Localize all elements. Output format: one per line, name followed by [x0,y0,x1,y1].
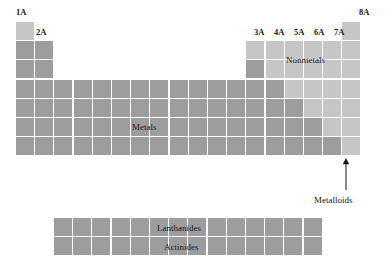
element-cell-metal [189,137,207,155]
element-cell-nonmetal [266,60,284,78]
element-cell-metalloid [266,80,284,98]
element-cell-metal [54,118,72,136]
element-cell-nonmetal [342,22,360,40]
fblock-cell-actinides [92,237,110,255]
fblock-cell-actinides [73,237,91,255]
element-cell-metal [227,137,245,155]
element-cell-metal [54,99,72,117]
group-label-4a: 4A [274,28,284,37]
fblock-cell-lanthanides [112,218,130,236]
element-cell-metal [35,118,53,136]
element-cell-metal [74,118,92,136]
element-cell-metal [246,99,264,117]
element-cell-metal [93,80,111,98]
element-cell-metal [112,80,130,98]
group-label-5a: 5A [294,28,304,37]
element-cell-metal [246,80,264,98]
metalloids-arrow-icon [341,158,351,190]
element-cell-metal [112,137,130,155]
fblock-cell-lanthanides [54,218,72,236]
fblock-cell-lanthanides [73,218,91,236]
element-cell-metal [112,99,130,117]
fblock-cell-lanthanides [227,218,245,236]
element-cell-metal [93,99,111,117]
region-label-lanthanides: Lanthanides [157,224,201,233]
element-cell-metal [150,99,168,117]
fblock-cell-actinides [304,237,322,255]
region-label-nonmetals: Nonmetals [286,56,325,65]
fblock-cell-lanthanides [284,218,302,236]
element-cell-metal [35,41,53,59]
element-cell-metal [16,137,34,155]
element-cell-metal [93,118,111,136]
element-cell-nonmetal [342,80,360,98]
element-cell-metal [131,137,149,155]
element-cell-metal [227,99,245,117]
element-cell-metal [208,118,226,136]
element-cell-metalloid [285,99,303,117]
fblock-cell-actinides [227,237,245,255]
element-cell-metal [74,137,92,155]
fblock-cell-actinides [54,237,72,255]
fblock-cell-actinides [284,237,302,255]
group-label-3a: 3A [254,28,264,37]
element-cell-metal [16,60,34,78]
element-cell-metal [189,99,207,117]
region-label-actinides: Actinides [164,243,199,252]
group-label-7a: 7A [334,28,344,37]
element-cell-nonmetal [323,99,341,117]
fblock-cell-actinides [131,237,149,255]
element-cell-nonmetal [323,118,341,136]
fblock-cell-lanthanides [304,218,322,236]
element-cell-metal [35,99,53,117]
element-cell-nonmetal [246,41,264,59]
element-cell-metal [112,118,130,136]
element-cell-metalloid [246,60,264,78]
element-cell-nonmetal [304,80,322,98]
fblock-cell-lanthanides [131,218,149,236]
fblock-cell-actinides [265,237,283,255]
element-cell-metal [208,99,226,117]
fblock-cell-lanthanides [265,218,283,236]
element-cell-metal [170,99,188,117]
element-cell-metal [54,80,72,98]
region-label-metals: Metals [132,123,157,132]
element-cell-metalloid [285,118,303,136]
element-cell-metal [266,118,284,136]
element-cell-metal [246,137,264,155]
element-cell-metal [74,99,92,117]
element-cell-metal [170,80,188,98]
group-label-1a: 1A [16,8,26,17]
element-cell-metalloid [323,137,341,155]
element-cell-nonmetal [342,118,360,136]
element-cell-metal [35,80,53,98]
element-cell-metal [170,118,188,136]
element-cell-metal [189,118,207,136]
element-cell-metal [93,137,111,155]
group-label-6a: 6A [314,28,324,37]
element-cell-metal [150,80,168,98]
element-cell-nonmetal [342,60,360,78]
element-cell-metal [227,118,245,136]
fblock-cell-lanthanides [208,218,226,236]
element-cell-metal [54,137,72,155]
region-label-metalloids: Metalloids [314,196,353,205]
element-cell-metal [246,118,264,136]
element-cell-metal [189,80,207,98]
fblock-cell-actinides [208,237,226,255]
element-cell-nonmetal [16,22,34,40]
element-cell-metal [131,80,149,98]
element-cell-metal [16,80,34,98]
periodic-table-figure: 1A2A3A4A5A6A7A8AMetalsNonmetalsMetalloid… [0,0,387,270]
element-cell-metal [74,80,92,98]
element-cell-nonmetal [304,99,322,117]
element-cell-metal [16,41,34,59]
element-cell-nonmetal [342,137,360,155]
fblock-cell-actinides [112,237,130,255]
element-cell-metal [131,99,149,117]
element-cell-metal [208,137,226,155]
element-cell-metal [285,137,303,155]
element-cell-metal [170,137,188,155]
element-cell-nonmetal [323,60,341,78]
element-cell-metal [35,60,53,78]
